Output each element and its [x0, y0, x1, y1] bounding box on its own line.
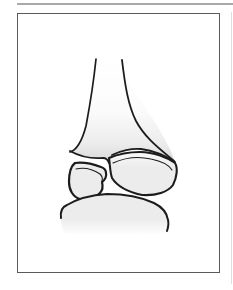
ankle-fracture-illustration [0, 0, 233, 290]
bone-shapes-layer [61, 59, 177, 235]
epiphysis-main-fragment [109, 152, 177, 195]
page [0, 0, 233, 290]
